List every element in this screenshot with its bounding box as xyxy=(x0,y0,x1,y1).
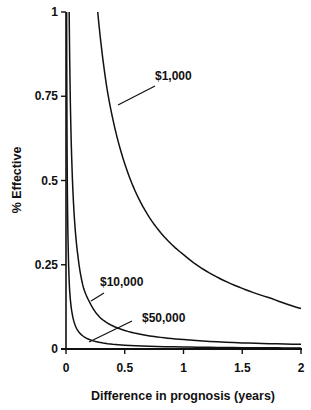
x-tick-label: 1 xyxy=(180,361,187,375)
line-chart: 00.250.50.75100.511.52 $1,000$10,000$50,… xyxy=(0,0,311,410)
x-tick-label: 2 xyxy=(298,361,305,375)
series-curve-0 xyxy=(98,12,301,309)
series-label-0: $1,000 xyxy=(155,69,192,83)
series-curve-2 xyxy=(67,12,301,348)
y-tick-label: 0.5 xyxy=(41,174,58,188)
x-tick-label: 0.5 xyxy=(116,361,133,375)
y-axis-title: % Effective xyxy=(10,147,24,214)
y-tick-label: 1 xyxy=(51,5,58,19)
series-label-1: $10,000 xyxy=(100,275,144,289)
series-curves xyxy=(67,12,301,348)
leader-line xyxy=(91,293,104,301)
series-label-2: $50,000 xyxy=(142,311,186,325)
leader-line xyxy=(118,86,155,105)
x-tick-label: 1.5 xyxy=(234,361,251,375)
y-tick-label: 0 xyxy=(51,342,58,356)
x-tick-label: 0 xyxy=(63,361,70,375)
x-axis-title: Difference in prognosis (years) xyxy=(91,389,275,403)
y-tick-label: 0.25 xyxy=(35,258,59,272)
y-tick-label: 0.75 xyxy=(35,89,59,103)
series-labels: $1,000$10,000$50,000 xyxy=(89,69,192,342)
